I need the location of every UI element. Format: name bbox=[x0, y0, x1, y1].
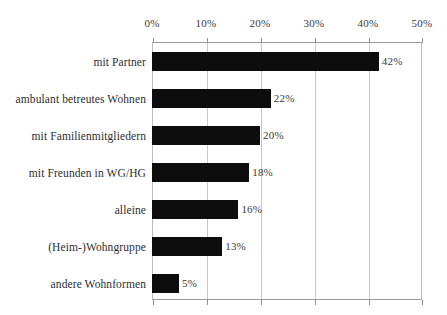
y-axis-category-labels: mit Partner ambulant betreutes Wohnen mi… bbox=[0, 42, 146, 300]
bar-value-label: 20% bbox=[263, 128, 284, 143]
x-axis-tick-labels: 0% 10% 20% 30% 40% 50% bbox=[0, 16, 447, 32]
bar-mit-familienmitgliedern[interactable] bbox=[152, 126, 260, 145]
bar-value-label: 5% bbox=[182, 276, 197, 291]
bar-andere-wohnformen[interactable] bbox=[152, 274, 179, 293]
x-tick-label-4: 40% bbox=[358, 16, 379, 30]
x-tickmark-bottom-0 bbox=[153, 300, 154, 305]
bar-mit-partner[interactable] bbox=[152, 52, 379, 71]
x-tickmark-bottom-50 bbox=[422, 300, 423, 305]
category-label-andere-wohnformen: andere Wohnformen bbox=[0, 276, 146, 292]
x-tickmark-bottom-30 bbox=[315, 300, 316, 305]
x-tick-label-1: 10% bbox=[196, 16, 217, 30]
category-label-mit-familienmitgliedern: mit Familienmitgliedern bbox=[0, 128, 146, 144]
x-tick-label-2: 20% bbox=[250, 16, 271, 30]
bar-value-label: 22% bbox=[274, 91, 295, 106]
category-label-mit-partner: mit Partner bbox=[0, 54, 146, 70]
x-tick-label-0: 0% bbox=[144, 16, 159, 30]
x-tick-label-5: 50% bbox=[412, 16, 433, 30]
bar-row: 16% bbox=[152, 200, 422, 219]
bar-value-label: 16% bbox=[241, 202, 262, 217]
x-tickmark-bottom-10 bbox=[207, 300, 208, 305]
x-tickmark-bottom-40 bbox=[369, 300, 370, 305]
bar-row: 5% bbox=[152, 274, 422, 293]
bar-mit-freunden-in-wg-hg[interactable] bbox=[152, 163, 249, 182]
x-tickmark-bottom-20 bbox=[261, 300, 262, 305]
bar-row: 20% bbox=[152, 126, 422, 145]
bar-row: 22% bbox=[152, 89, 422, 108]
category-label-mit-freunden-in-wg-hg: mit Freunden in WG/HG bbox=[0, 165, 146, 181]
category-label-ambulant-betreutes-wohnen: ambulant betreutes Wohnen bbox=[0, 91, 146, 107]
bar-row: 42% bbox=[152, 52, 422, 71]
bars-layer: 42% 22% 20% 18% 16% 13% 5% bbox=[152, 42, 422, 300]
bar-ambulant-betreutes-wohnen[interactable] bbox=[152, 89, 271, 108]
bar-value-label: 18% bbox=[252, 165, 273, 180]
bar-alleine[interactable] bbox=[152, 200, 238, 219]
category-label-alleine: alleine bbox=[0, 202, 146, 218]
x-tickmark-top-50 bbox=[422, 38, 423, 43]
x-tick-label-3: 30% bbox=[304, 16, 325, 30]
bar-row: 18% bbox=[152, 163, 422, 182]
bar-heim-wohngruppe[interactable] bbox=[152, 237, 222, 256]
bar-row: 13% bbox=[152, 237, 422, 256]
bar-chart: 0% 10% 20% 30% 40% 50% 42% 22% bbox=[0, 0, 447, 315]
category-label-heim-wohngruppe: (Heim-)Wohngruppe bbox=[0, 239, 146, 255]
bar-value-label: 13% bbox=[225, 239, 246, 254]
bar-value-label: 42% bbox=[382, 54, 403, 69]
